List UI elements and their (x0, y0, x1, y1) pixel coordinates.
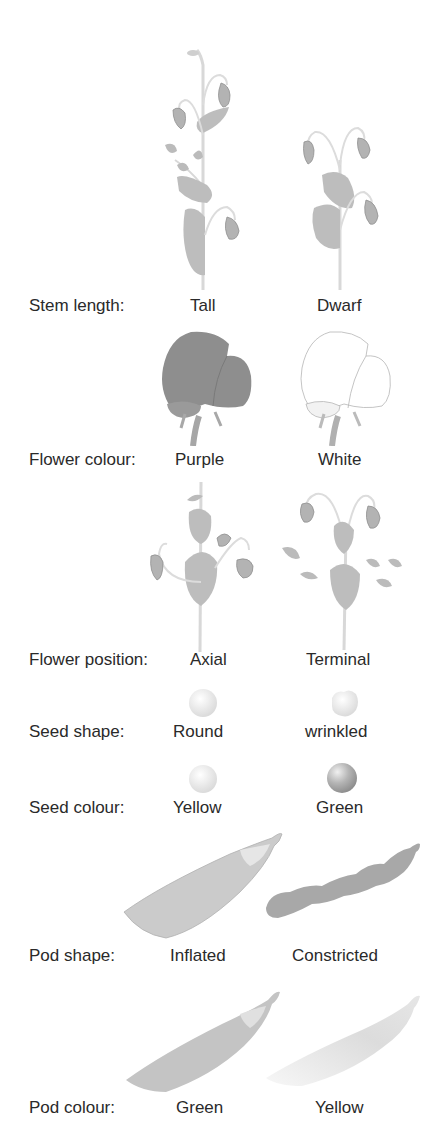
green-seed-illustration (326, 762, 358, 794)
trait-label-stem-length: Stem length: (29, 296, 124, 316)
dwarf-plant-illustration (300, 120, 390, 290)
wrinkled-seed-illustration (328, 688, 360, 718)
option-constricted: Constricted (292, 946, 378, 966)
constricted-pod-illustration (260, 842, 425, 922)
tall-plant-illustration (155, 45, 255, 290)
option-green-seed: Green (316, 798, 363, 818)
option-green-pod: Green (176, 1098, 223, 1118)
terminal-flower-plant-illustration (278, 490, 408, 650)
yellow-seed-illustration (188, 764, 218, 794)
purple-flower-illustration (155, 328, 255, 446)
option-axial: Axial (190, 650, 227, 670)
option-yellow-pod: Yellow (315, 1098, 364, 1118)
option-purple: Purple (175, 450, 224, 470)
trait-label-pod-colour: Pod colour: (29, 1098, 115, 1118)
option-white: White (318, 450, 361, 470)
yellow-pod-illustration (262, 990, 424, 1090)
option-dwarf: Dwarf (317, 296, 361, 316)
option-round: Round (173, 722, 223, 742)
trait-label-flower-colour: Flower colour: (29, 450, 136, 470)
option-yellow-seed: Yellow (173, 798, 222, 818)
axial-flower-plant-illustration (145, 482, 265, 652)
round-seed-illustration (188, 688, 218, 718)
option-tall: Tall (190, 296, 216, 316)
white-flower-illustration (294, 328, 394, 446)
option-wrinkled: wrinkled (305, 722, 367, 742)
trait-label-seed-colour: Seed colour: (29, 798, 124, 818)
trait-label-flower-position: Flower position: (29, 650, 148, 670)
trait-label-pod-shape: Pod shape: (29, 946, 115, 966)
option-terminal: Terminal (306, 650, 370, 670)
trait-label-seed-shape: Seed shape: (29, 722, 124, 742)
option-inflated: Inflated (170, 946, 226, 966)
